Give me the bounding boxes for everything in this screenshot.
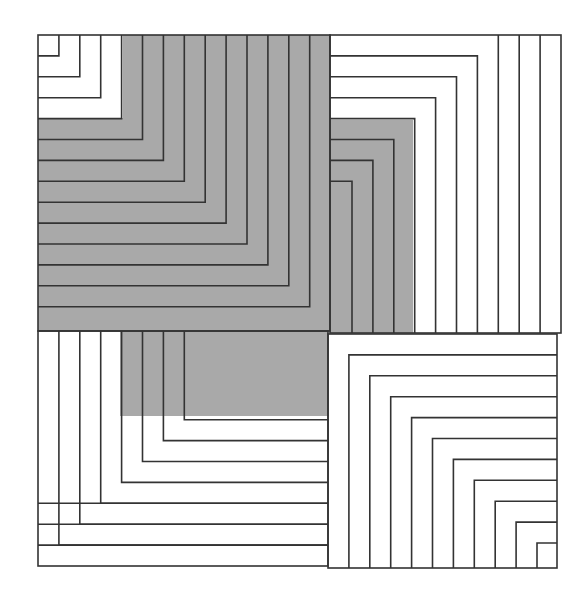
nested-line-bottom-right bbox=[412, 418, 557, 568]
quadrant-pattern-diagram bbox=[0, 0, 588, 596]
nested-line-bottom-right bbox=[370, 376, 557, 568]
gray-region-top-right bbox=[330, 120, 413, 333]
quadrant-frame-bottom-right bbox=[328, 334, 557, 568]
nested-line-bottom-right bbox=[453, 459, 557, 568]
nested-line-top-left bbox=[38, 35, 101, 98]
nested-line-bottom-right bbox=[537, 543, 557, 568]
nested-line-top-left bbox=[38, 35, 59, 56]
nested-line-bottom-right bbox=[495, 501, 557, 568]
gray-region-bottom-left bbox=[120, 331, 328, 416]
